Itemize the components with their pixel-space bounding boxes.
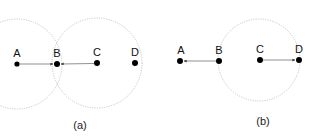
- node-label-c: C: [93, 47, 101, 58]
- node-d: [132, 60, 138, 66]
- node-b: [216, 58, 222, 64]
- node-c: [257, 57, 263, 63]
- node-label-b: B: [53, 48, 60, 59]
- node-a: [14, 61, 19, 66]
- node-label-d: D: [131, 47, 139, 58]
- node-b: [54, 61, 60, 67]
- diagram-canvas: [0, 0, 321, 138]
- node-label-b: B: [215, 45, 222, 56]
- caption-a: (a): [73, 120, 86, 131]
- node-label-c: C: [256, 44, 264, 55]
- node-label-d: D: [295, 44, 303, 55]
- node-a: [177, 58, 183, 64]
- arrow-c-to-b: [61, 64, 94, 65]
- node-label-a: A: [177, 45, 184, 56]
- node-label-a: A: [13, 48, 20, 59]
- node-c: [94, 60, 100, 66]
- panel-b: [177, 19, 302, 101]
- caption-b: (b): [256, 116, 269, 127]
- node-d: [296, 57, 302, 63]
- panel-a: [0, 18, 142, 109]
